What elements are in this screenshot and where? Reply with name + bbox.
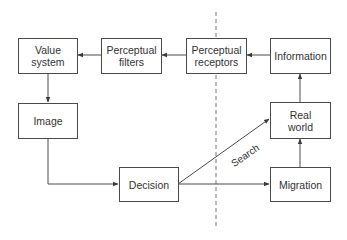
- node-label: world: [288, 121, 313, 133]
- node-label: Value: [31, 44, 64, 56]
- node-decision: Decision: [119, 167, 179, 202]
- node-label: Information: [274, 50, 327, 62]
- node-value-system: Valuesystem: [18, 38, 78, 74]
- node-label: Image: [33, 115, 62, 127]
- node-information: Information: [270, 38, 331, 74]
- node-migration: Migration: [270, 167, 331, 202]
- node-label: Migration: [279, 179, 322, 191]
- node-real-world: Realworld: [270, 102, 331, 139]
- node-perceptual-receptors: Perceptualreceptors: [186, 38, 247, 74]
- node-label: Perceptual: [106, 44, 156, 56]
- node-image: Image: [18, 103, 78, 139]
- node-label: receptors: [191, 56, 241, 68]
- node-label: Real: [288, 109, 313, 121]
- node-label: Perceptual: [191, 44, 241, 56]
- node-label: filters: [106, 56, 156, 68]
- node-perceptual-filters: Perceptualfilters: [101, 38, 162, 74]
- node-label: Decision: [129, 179, 169, 191]
- node-label: system: [31, 56, 64, 68]
- edge-image-to-decision: [48, 138, 118, 184]
